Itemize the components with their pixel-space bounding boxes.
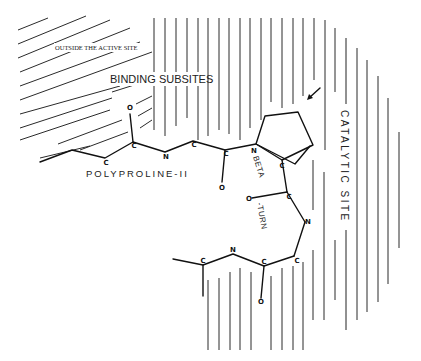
atom-c: C: [131, 142, 136, 150]
binding-subsites-label: BINDING SUBSITES: [110, 73, 213, 85]
atom-c: C: [286, 193, 291, 201]
hatch-line: [18, 18, 48, 30]
atom-c: C: [200, 257, 205, 265]
atom-c: C: [261, 258, 266, 266]
beta-label: BETA: [251, 155, 267, 179]
bond-carbonyl-3: [252, 192, 287, 198]
bond-turn-c: [294, 222, 305, 256]
hatch-line: [18, 20, 110, 58]
hatch-line: [18, 16, 86, 44]
atom-n: N: [163, 153, 169, 161]
hatch-line: [136, 96, 152, 104]
polyproline-label: POLYPROLINE-II: [86, 168, 189, 179]
bond-carbonyl-4: [261, 266, 264, 298]
atom-o: O: [219, 184, 225, 192]
atom-c: C: [191, 141, 196, 149]
hatch-line: [140, 120, 152, 128]
hatch-line: [20, 110, 110, 140]
outside-active-site-label: OUTSIDE THE ACTIVE SITE: [55, 44, 137, 51]
atom-c: C: [294, 257, 299, 265]
hatch-line: [80, 132, 128, 150]
atom-o: O: [127, 104, 133, 112]
hatch-line: [58, 120, 122, 144]
atom-n: N: [305, 218, 311, 226]
enzyme-active-site-diagram: C C O N C C O N C C O N C C O N C OUTSID…: [0, 0, 421, 361]
atom-n: N: [251, 147, 257, 155]
hatch-line: [138, 108, 152, 116]
atom-c: C: [103, 159, 108, 167]
atom-labels: C C O N C C O N C C O N C C O N C: [103, 104, 311, 306]
turn-label: -TURN: [255, 202, 269, 231]
atom-c: C: [279, 162, 284, 170]
atom-o: O: [258, 298, 264, 306]
atom-c: C: [223, 150, 228, 158]
bond-lower-chain: [173, 254, 294, 266]
peptide-backbone: [40, 112, 313, 298]
atom-o: O: [246, 195, 252, 203]
catalytic-site-label: CATALYTIC SITE: [339, 110, 350, 223]
bond-carbonyl-1: [130, 114, 133, 142]
active-site-hatching: [154, 18, 399, 350]
atom-n: N: [230, 246, 236, 254]
arrow-pointer-icon: [307, 88, 320, 100]
hatch-line: [20, 98, 112, 128]
